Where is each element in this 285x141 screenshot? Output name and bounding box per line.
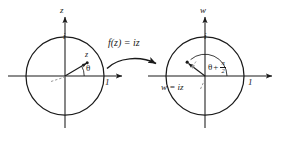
right-vertical-axis-label: w — [200, 6, 206, 15]
left-vertical-axis-label: z — [60, 6, 64, 15]
right-angle-fraction: π 2 — [220, 60, 225, 75]
mapping-arrow-group — [107, 59, 156, 69]
right-angle-label: θ+ π 2 — [208, 60, 226, 75]
right-point-label: w = iz — [161, 83, 184, 92]
right-imaginary-unit-label: i — [204, 32, 207, 41]
right-radius-vector — [189, 64, 206, 77]
right-angle-denominator: 2 — [220, 67, 225, 75]
left-angle-arc — [82, 66, 85, 76]
left-angle-label: θ — [86, 64, 90, 73]
left-imaginary-unit-label: i — [63, 32, 66, 41]
right-point-marker — [186, 61, 189, 64]
right-angle-theta: θ — [208, 62, 212, 72]
right-angle-plus-sign: + — [213, 62, 218, 72]
right-real-unit-label: 1 — [248, 78, 253, 87]
right-angle-numerator: π — [220, 60, 225, 67]
left-angle-guide-line — [51, 77, 66, 82]
mapping-function-label: f(z) = iz — [108, 38, 140, 48]
figure-vector-layer — [0, 0, 285, 141]
left-real-unit-label: 1 — [105, 78, 110, 87]
complex-mapping-figure: z i 1 z θ f(z) = iz w i 1 w = iz θ+ π 2 — [0, 0, 285, 141]
mapping-curved-arrow — [107, 59, 156, 69]
left-point-label: z — [85, 51, 88, 59]
